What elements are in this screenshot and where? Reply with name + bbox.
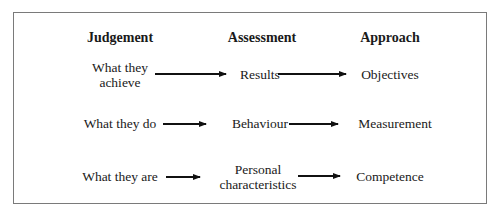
arrows-layer — [0, 0, 503, 217]
